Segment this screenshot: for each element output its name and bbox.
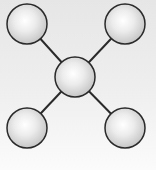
node-bottom-left — [7, 108, 47, 148]
node-center — [55, 57, 95, 97]
nodes-group — [7, 4, 145, 148]
node-bottom-right — [105, 108, 145, 148]
network-diagram — [0, 0, 156, 170]
node-top-left — [7, 4, 47, 44]
node-top-right — [105, 4, 145, 44]
diagram-svg — [0, 0, 156, 170]
